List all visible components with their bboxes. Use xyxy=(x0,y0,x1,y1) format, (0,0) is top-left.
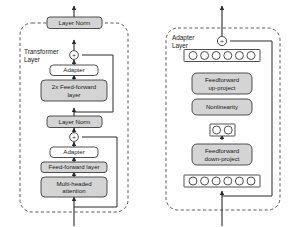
adapter-layer-label-line1: Adapter xyxy=(172,34,195,42)
block-add-top: + xyxy=(70,51,79,60)
block-add-bottom: + xyxy=(70,133,79,142)
feedforward-down-project-label-line2: down-project xyxy=(205,155,240,162)
add-bottom-label: + xyxy=(72,134,76,140)
nonlinearity-label: Nonlinearity xyxy=(206,103,239,110)
add-top-label: + xyxy=(72,52,76,58)
block-nonlinearity: Nonlinearity xyxy=(192,99,252,115)
add-adapter-label: + xyxy=(220,38,224,44)
transformer-layer-label-line1: Transformer xyxy=(24,48,59,55)
neuron-row-input xyxy=(184,175,260,187)
transformer-layer-label-line2: Layer xyxy=(24,56,41,64)
neuron-input-6 xyxy=(247,177,255,185)
block-feed-forward-layer: Feed-forward layer xyxy=(41,162,107,173)
feed-forward-layer-label: Feed-forward layer xyxy=(48,163,99,170)
block-multi-headed-attention: Multi-headed attention xyxy=(41,177,107,197)
adapter-layer-label-line2: Layer xyxy=(172,42,189,50)
block-feed-forward-2x: 2x Feed-forward layer xyxy=(41,80,107,101)
neuron-output-6 xyxy=(247,52,255,60)
block-feedforward-up-project: Feedforward up-project xyxy=(192,73,252,94)
feedforward-up-project-label-line2: up-project xyxy=(208,84,235,91)
neuron-input-2 xyxy=(201,177,209,185)
neuron-output-5 xyxy=(235,52,243,60)
neuron-output-3 xyxy=(212,52,220,60)
neuron-output-1 xyxy=(189,52,197,60)
layer-norm-bottom-label: Layer Norm xyxy=(59,118,91,125)
neuron-output-4 xyxy=(224,52,232,60)
block-adapter-bottom: Adapter xyxy=(50,147,98,158)
feedforward-up-project-label-line1: Feedforward xyxy=(205,76,239,83)
block-adapter-top: Adapter xyxy=(50,65,98,76)
multi-headed-attention-label-line1: Multi-headed xyxy=(56,180,91,187)
multi-headed-attention-label-line2: attention xyxy=(62,187,85,194)
figure-canvas: Transformer Layer Layer Norm xyxy=(0,0,296,227)
neuron-bottleneck-2 xyxy=(224,126,232,134)
block-layer-norm-top: Layer Norm xyxy=(47,17,102,29)
neuron-input-3 xyxy=(212,177,220,185)
block-feedforward-down-project: Feedforward down-project xyxy=(192,144,252,165)
neuron-row-bottleneck xyxy=(210,124,235,136)
neuron-row-output xyxy=(184,50,260,62)
layer-norm-top-label: Layer Norm xyxy=(59,19,91,26)
neuron-bottleneck-1 xyxy=(213,126,221,134)
feed-forward-2x-label-line1: 2x Feed-forward xyxy=(52,83,96,90)
adapter-architecture-figure: Transformer Layer Layer Norm xyxy=(0,0,296,227)
neuron-input-1 xyxy=(189,177,197,185)
adapter-top-label: Adapter xyxy=(63,66,84,73)
feedforward-down-project-label-line1: Feedforward xyxy=(205,147,239,154)
feed-forward-2x-label-line2: layer xyxy=(67,91,80,98)
block-add-adapter: + xyxy=(217,36,226,45)
block-layer-norm-bottom: Layer Norm xyxy=(47,116,102,128)
neuron-output-2 xyxy=(201,52,209,60)
neuron-input-4 xyxy=(224,177,232,185)
adapter-bottom-label: Adapter xyxy=(63,148,84,155)
neuron-input-5 xyxy=(235,177,243,185)
